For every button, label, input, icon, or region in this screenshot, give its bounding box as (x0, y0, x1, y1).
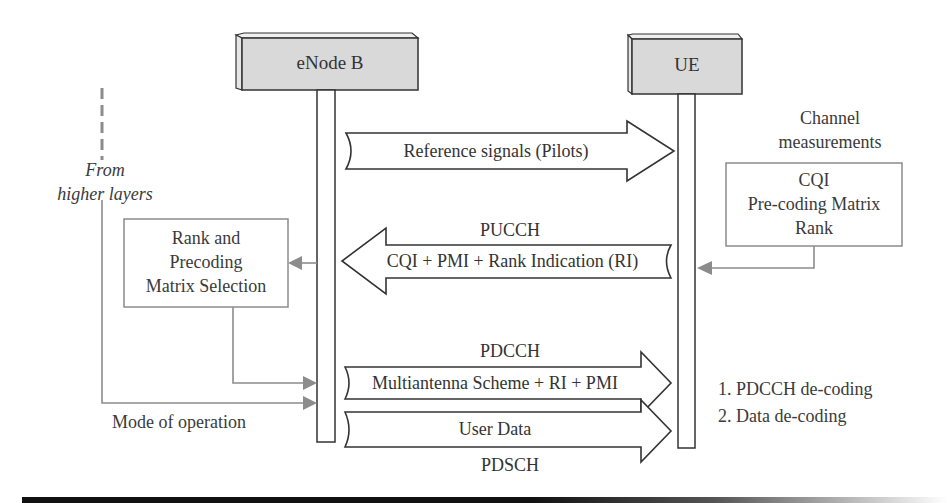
channel-label: Channel (770, 108, 890, 129)
pilots-text: Reference signals (Pilots) (356, 141, 636, 162)
ue-lifeline (678, 94, 695, 448)
measurements-line-3: Rank (726, 216, 902, 240)
pucch-text: CQI + PMI + Rank Indication (RI) (360, 251, 665, 272)
pdcch-channel-label: PDCCH (440, 341, 580, 362)
step-2-label: 2. Data de-coding (718, 406, 846, 427)
selection-arrowhead (288, 256, 302, 270)
measurements-box-text: CQI Pre-coding Matrix Rank (726, 168, 902, 240)
step-1-label: 1. PDCCH de-coding (718, 379, 873, 400)
selection-line-3: Matrix Selection (124, 274, 288, 298)
measurements-label: measurements (750, 132, 910, 153)
selection-line-1: Rank and (124, 226, 288, 250)
measurements-arrowhead (697, 261, 712, 275)
selection-line-2: Precoding (124, 250, 288, 274)
pucch-channel-label: PUCCH (440, 220, 580, 241)
enodeb-lifeline (317, 90, 335, 442)
enodeb-label: eNode B (242, 52, 418, 74)
measurements-connector (710, 246, 814, 268)
pdsch-channel-label: PDSCH (440, 455, 580, 476)
pdcch-arrowhead-gray (303, 376, 317, 390)
higher-layers-label: higher layers (40, 184, 170, 205)
mode-of-operation-label: Mode of operation (112, 412, 246, 433)
selection-to-pdcch-connector (233, 307, 305, 383)
selection-box-text: Rank and Precoding Matrix Selection (124, 226, 288, 298)
measurements-line-2: Pre-coding Matrix (726, 192, 902, 216)
pdcch-text: Multiantenna Scheme + RI + PMI (350, 373, 640, 394)
bottom-rule (22, 497, 947, 503)
measurements-line-1: CQI (726, 168, 902, 192)
from-label: From (60, 160, 150, 181)
pdsch-text: User Data (350, 419, 640, 440)
ue-label: UE (632, 54, 742, 76)
mode-arrowhead (303, 396, 317, 410)
